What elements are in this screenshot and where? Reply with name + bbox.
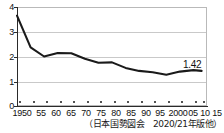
x-axis-dot-1970 bbox=[73, 101, 75, 103]
last-value-annotation: 1.42 bbox=[183, 60, 201, 70]
x-axis-label-2000: 2000 bbox=[169, 108, 188, 118]
x-axis-dot-1960 bbox=[46, 101, 48, 103]
x-axis-dot-1995 bbox=[141, 101, 143, 103]
x-axis-dot-1965 bbox=[60, 101, 62, 103]
x-axis-label-1950: 1950 bbox=[13, 108, 32, 118]
source-note: （日本国勢図会 2020/21年版他） bbox=[0, 119, 222, 130]
x-axis-dot-1990 bbox=[127, 101, 129, 103]
x-axis bbox=[17, 106, 208, 107]
x-axis-dot-1955 bbox=[33, 101, 35, 103]
x-axis-label-2010: 10 bbox=[200, 108, 209, 118]
x-axis-dot-1985 bbox=[114, 101, 116, 103]
x-axis-dot-2010 bbox=[181, 101, 183, 103]
x-axis-label-1965: 65 bbox=[66, 108, 75, 118]
x-axis-label-1980: 80 bbox=[111, 108, 120, 118]
x-axis-label-1990: 90 bbox=[141, 108, 150, 118]
x-axis-label-2005: 05 bbox=[188, 108, 197, 118]
x-axis-dot-1980 bbox=[100, 101, 102, 103]
x-axis-label-2015: 15 bbox=[212, 108, 221, 118]
x-axis-label-1995: 95 bbox=[155, 108, 164, 118]
x-axis-dot-2018 bbox=[203, 101, 205, 103]
x-axis-label-1955: 55 bbox=[36, 108, 45, 118]
fertility-rate-line bbox=[17, 16, 202, 75]
x-axis-dot-2005 bbox=[168, 101, 170, 103]
x-axis-label-1985: 85 bbox=[126, 108, 135, 118]
x-axis-label-1970: 70 bbox=[81, 108, 90, 118]
x-axis-label-1960: 60 bbox=[51, 108, 60, 118]
x-axis-dot-2015 bbox=[195, 101, 197, 103]
x-axis-dot-1950 bbox=[19, 101, 21, 103]
fertility-rate-line-chart: 4 3 2 1 0 1950 55 60 65 70 75 80 85 90 9… bbox=[0, 0, 224, 133]
x-axis-dot-1975 bbox=[87, 101, 89, 103]
x-axis-dot-2000 bbox=[154, 101, 156, 103]
x-axis-label-1975: 75 bbox=[96, 108, 105, 118]
